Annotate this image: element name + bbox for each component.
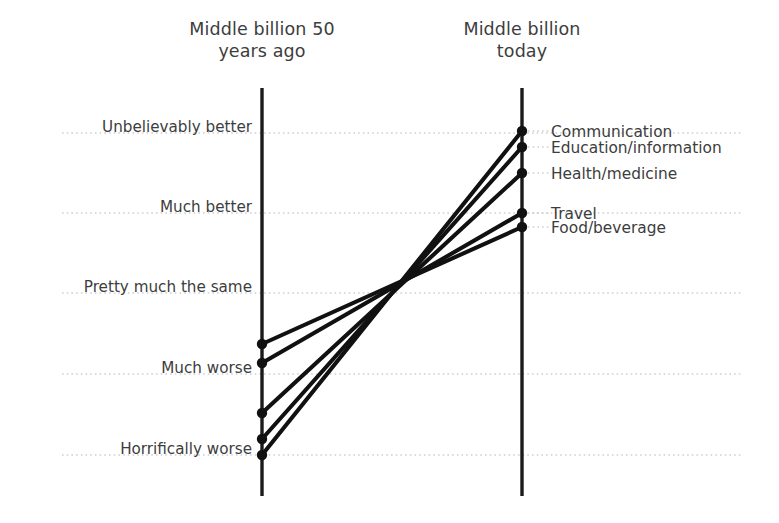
slope-line-health-medicine	[262, 173, 522, 413]
data-point-right-food-beverage	[517, 222, 527, 232]
slopegraph-chart: Middle billion 50 years ago Middle billi…	[0, 0, 779, 523]
data-point-left-travel	[257, 358, 267, 368]
series-label-health-medicine: Health/medicine	[551, 167, 677, 182]
tier-label-much-better: Much better	[160, 200, 252, 215]
series-label-food-beverage: Food/beverage	[551, 221, 666, 236]
data-point-right-health-medicine	[517, 168, 527, 178]
slope-line-travel	[262, 213, 522, 363]
series-label-education-information: Education/information	[551, 141, 722, 156]
tier-label-much-worse: Much worse	[161, 361, 252, 376]
leader-lines	[528, 131, 549, 227]
slope-lines	[262, 131, 522, 455]
slope-line-food-beverage	[262, 227, 522, 344]
data-point-right-communication	[517, 126, 527, 136]
plot-area	[0, 0, 779, 523]
data-point-right-education-information	[517, 142, 527, 152]
tier-label-pretty-much-the-same: Pretty much the same	[84, 280, 252, 295]
data-point-left-education-information	[257, 434, 267, 444]
data-point-left-food-beverage	[257, 339, 267, 349]
tier-label-unbelievably-better: Unbelievably better	[102, 120, 252, 135]
data-point-left-communication	[257, 450, 267, 460]
data-point-left-health-medicine	[257, 408, 267, 418]
tier-label-horrifically-worse: Horrifically worse	[120, 442, 252, 457]
data-point-right-travel	[517, 208, 527, 218]
